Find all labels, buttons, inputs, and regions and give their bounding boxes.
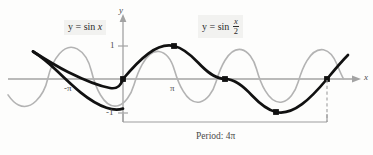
marker-point-2pi: [222, 76, 228, 82]
fraction-x-over-2: x2: [233, 17, 239, 35]
marker-point-pi: [171, 43, 177, 49]
y-axis-label: y: [119, 6, 123, 15]
equation-sin-x-prefix: y = sin: [68, 21, 98, 32]
fraction-numerator: x: [233, 17, 239, 26]
x-axis-arrow: [352, 76, 361, 83]
y-tick-label-neg-one: -1: [106, 108, 114, 117]
x-tick-label-pi: π: [170, 84, 175, 93]
equation-sin-x-over-2-prefix: y = sin: [202, 21, 232, 32]
y-tick-label-one: 1: [110, 41, 115, 50]
x-axis: [8, 76, 361, 83]
y-axis-arrow: [120, 14, 127, 22]
period-bracket: [123, 114, 327, 122]
period-label: Period: 4π: [196, 132, 235, 142]
y-axis: [120, 14, 127, 122]
fraction-denominator: 2: [233, 26, 239, 36]
equation-label-sin-x: y = sin x: [64, 20, 106, 35]
equation-label-sin-x-over-2: y = sin x2: [198, 15, 243, 38]
marker-point-3pi: [273, 109, 279, 115]
equation-sin-x-arg: x: [98, 21, 102, 32]
x-axis-label: x: [364, 73, 368, 82]
x-tick-label-neg-pi: -π: [64, 84, 72, 93]
trig-graph-figure: [0, 0, 373, 155]
curve-sin-x: [8, 47, 344, 106]
marker-point-0: [120, 76, 126, 82]
